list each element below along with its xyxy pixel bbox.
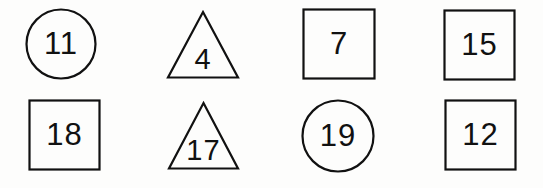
worksheet-canvas: 11 4 7 15 18 17 (0, 0, 543, 188)
shape-item-square-18[interactable]: 18 (28, 99, 101, 171)
shape-number-label: 19 (301, 120, 375, 151)
shape-item-square-15[interactable]: 15 (443, 9, 516, 81)
shape-number-label: 15 (443, 29, 516, 60)
shape-number-label: 18 (28, 119, 101, 150)
shape-item-square-12[interactable]: 12 (444, 99, 517, 171)
shape-number-label: 11 (25, 28, 97, 59)
shape-number-label: 4 (166, 45, 240, 74)
shape-number-label: 17 (167, 136, 240, 165)
shape-item-circle-11[interactable]: 11 (25, 8, 97, 80)
shape-number-label: 12 (444, 119, 517, 150)
shape-item-triangle-17[interactable]: 17 (167, 101, 240, 171)
shape-item-square-7[interactable]: 7 (302, 8, 376, 80)
shape-item-triangle-4[interactable]: 4 (166, 10, 240, 80)
shape-number-label: 7 (302, 28, 376, 59)
shape-item-circle-19[interactable]: 19 (301, 99, 375, 173)
